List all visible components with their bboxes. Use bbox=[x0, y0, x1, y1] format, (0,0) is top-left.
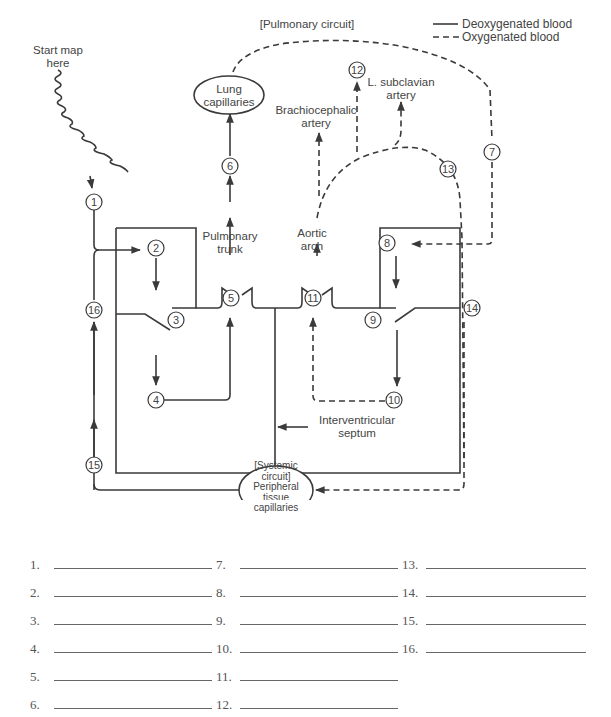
answer-blank[interactable] bbox=[426, 567, 586, 569]
answer-row: 1. bbox=[30, 545, 212, 573]
answer-number: 8. bbox=[216, 585, 238, 601]
answer-number: 15. bbox=[402, 613, 424, 629]
answer-number: 6. bbox=[30, 697, 52, 713]
answer-number: 4. bbox=[30, 641, 52, 657]
peripheral-label-1: Peripheral bbox=[253, 481, 299, 492]
aortic-arch-label-1: Aortic bbox=[297, 227, 327, 239]
answer-blank[interactable] bbox=[426, 623, 586, 625]
answer-number: 9. bbox=[216, 613, 238, 629]
pulmonary-trunk-label-2: trunk bbox=[217, 243, 243, 255]
answer-blank[interactable] bbox=[240, 623, 398, 625]
answer-col-1: 1. 2. 3. 4. 5. 6. bbox=[30, 545, 212, 713]
answer-number: 2. bbox=[30, 585, 52, 601]
marker-9-label: 9 bbox=[370, 314, 376, 326]
pulmonary-circuit-label: [Pulmonary circuit] bbox=[260, 18, 355, 30]
answer-blank[interactable] bbox=[54, 651, 212, 653]
systemic-label-1: [Systemic bbox=[254, 460, 297, 471]
peripheral-label-3: capillaries bbox=[246, 502, 306, 513]
answer-col-2: 7. 8. 9. 10. 11. 12. bbox=[216, 545, 398, 713]
lung-capillaries-node bbox=[194, 76, 264, 114]
answer-blank[interactable] bbox=[240, 707, 398, 709]
marker-15-label: 15 bbox=[88, 459, 100, 471]
answer-blank[interactable] bbox=[54, 595, 212, 597]
answer-blank[interactable] bbox=[54, 623, 212, 625]
lung-label-1: Lung bbox=[216, 83, 242, 95]
septum-label-1: Interventricular bbox=[319, 414, 395, 426]
answer-blank[interactable] bbox=[54, 567, 212, 569]
answer-number: 10. bbox=[216, 641, 238, 657]
answer-blank[interactable] bbox=[54, 707, 212, 709]
answer-blank[interactable] bbox=[426, 595, 586, 597]
subclavian-label-2: artery bbox=[386, 89, 416, 101]
legend-deoxygenated: Deoxygenated blood bbox=[462, 17, 572, 31]
marker-11-label: 11 bbox=[307, 292, 318, 304]
answer-row: 15. bbox=[402, 601, 586, 629]
answer-row: 13. bbox=[402, 545, 586, 573]
answer-number: 3. bbox=[30, 613, 52, 629]
answer-number: 11. bbox=[216, 669, 238, 685]
answer-row: 8. bbox=[216, 573, 398, 601]
answer-row: 6. bbox=[30, 685, 212, 713]
marker-1-label: 1 bbox=[91, 196, 97, 208]
answer-row: 12. bbox=[216, 685, 398, 713]
answer-row: 5. bbox=[30, 657, 212, 685]
pulmonary-trunk-label-1: Pulmonary bbox=[203, 230, 258, 242]
answer-blank[interactable] bbox=[240, 567, 398, 569]
answer-row: 16. bbox=[402, 629, 586, 657]
answer-row: 10. bbox=[216, 629, 398, 657]
brachiocephalic-label-2: artery bbox=[301, 117, 331, 129]
answer-blank[interactable] bbox=[240, 651, 398, 653]
answer-number: 16. bbox=[402, 641, 424, 657]
marker-3-label: 3 bbox=[173, 314, 179, 326]
answer-col-3: 13. 14. 15. 16. bbox=[402, 545, 586, 657]
answer-row: 14. bbox=[402, 573, 586, 601]
subclavian-label-1: L. subclavian bbox=[367, 76, 434, 88]
answer-blank[interactable] bbox=[54, 679, 212, 681]
answer-blank[interactable] bbox=[240, 679, 398, 681]
marker-2-label: 2 bbox=[153, 242, 159, 254]
answer-number: 13. bbox=[402, 557, 424, 573]
answer-number: 12. bbox=[216, 697, 238, 713]
start-map-line2: here bbox=[46, 57, 69, 69]
marker-7-label: 7 bbox=[489, 146, 495, 158]
blood-flow-diagram: 1 2 3 4 5 6 7 8 9 10 11 12 13 14 15 16 [… bbox=[0, 0, 611, 500]
marker-13-label: 13 bbox=[442, 163, 454, 175]
lung-label-2: capillaries bbox=[203, 96, 254, 108]
start-squiggle bbox=[55, 70, 128, 172]
brachiocephalic-label-1: Brachiocephalic bbox=[275, 104, 356, 116]
marker-4-label: 4 bbox=[153, 394, 159, 406]
septum-label-2: septum bbox=[338, 427, 376, 439]
marker-5-label: 5 bbox=[228, 292, 234, 304]
answer-row: 4. bbox=[30, 629, 212, 657]
marker-10-label: 10 bbox=[388, 394, 400, 406]
answer-blank[interactable] bbox=[426, 651, 586, 653]
answer-number: 14. bbox=[402, 585, 424, 601]
answer-row: 7. bbox=[216, 545, 398, 573]
answer-row: 9. bbox=[216, 601, 398, 629]
aortic-arch-label-2: arch bbox=[301, 240, 323, 252]
marker-6-label: 6 bbox=[227, 160, 233, 172]
start-map-line1: Start map bbox=[33, 44, 83, 56]
answer-number: 5. bbox=[30, 669, 52, 685]
answer-number: 1. bbox=[30, 557, 52, 573]
answer-row: 2. bbox=[30, 573, 212, 601]
marker-12-label: 12 bbox=[351, 64, 363, 76]
marker-16-label: 16 bbox=[88, 304, 100, 316]
answer-row: 3. bbox=[30, 601, 212, 629]
marker-14-label: 14 bbox=[466, 302, 478, 314]
answer-blank[interactable] bbox=[240, 595, 398, 597]
answer-row: 11. bbox=[216, 657, 398, 685]
marker-8-label: 8 bbox=[384, 237, 390, 249]
legend-oxygenated: Oxygenated blood bbox=[462, 30, 559, 44]
peripheral-label-2: tissue bbox=[263, 492, 290, 500]
answer-number: 7. bbox=[216, 557, 238, 573]
